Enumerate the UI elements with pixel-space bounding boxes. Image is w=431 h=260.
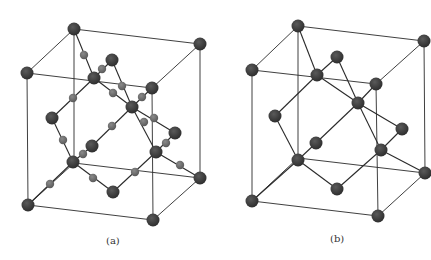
panel-a-label: (a) [106, 235, 120, 246]
crystal-structure-figure [0, 0, 431, 260]
panel-b-label: (b) [330, 233, 344, 244]
